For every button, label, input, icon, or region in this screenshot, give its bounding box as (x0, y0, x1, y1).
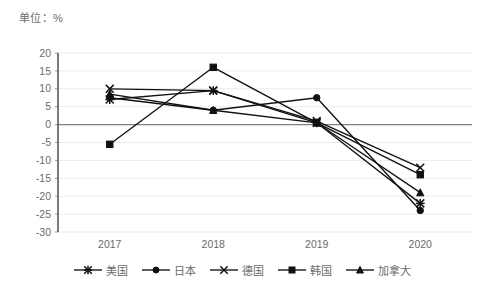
triangle-marker-icon (345, 264, 375, 276)
svg-text:-20: -20 (36, 190, 51, 202)
square-marker-icon (277, 264, 307, 276)
line-chart: 单位：% 20151050-5-10-15-20-25-30 201720182… (0, 0, 484, 293)
legend-label: 美国 (106, 262, 128, 278)
svg-text:-30: -30 (36, 226, 51, 238)
svg-text:5: 5 (45, 100, 51, 112)
star-marker-icon (73, 264, 103, 276)
svg-text:15: 15 (39, 65, 51, 77)
svg-text:-25: -25 (36, 208, 51, 220)
legend-item-加拿大[interactable]: 加拿大 (345, 262, 411, 278)
legend-label: 德国 (242, 262, 264, 278)
series-德国 (106, 85, 424, 172)
series-group (105, 64, 424, 214)
legend-label: 日本 (174, 262, 196, 278)
y-axis-ticks: 20151050-5-10-15-20-25-30 (36, 47, 58, 238)
svg-text:2018: 2018 (202, 238, 226, 250)
legend-item-韩国[interactable]: 韩国 (277, 262, 332, 278)
legend-item-美国[interactable]: 美国 (73, 262, 128, 278)
svg-text:2020: 2020 (409, 238, 433, 250)
svg-text:2017: 2017 (98, 238, 122, 250)
plot-svg: 20151050-5-10-15-20-25-30 20172018201920… (0, 0, 484, 293)
legend-label: 韩国 (310, 262, 332, 278)
chart-legend: 美国日本德国韩国加拿大 (0, 262, 484, 278)
plot-area: 20151050-5-10-15-20-25-30 20172018201920… (0, 0, 484, 293)
legend-item-德国[interactable]: 德国 (209, 262, 264, 278)
svg-text:0: 0 (45, 118, 51, 130)
svg-text:2019: 2019 (305, 238, 329, 250)
x-axis-ticks: 2017201820192020 (98, 238, 432, 250)
legend-item-日本[interactable]: 日本 (141, 262, 196, 278)
svg-text:10: 10 (39, 82, 51, 94)
svg-text:20: 20 (39, 47, 51, 59)
legend-label: 加拿大 (378, 262, 411, 278)
svg-text:-10: -10 (36, 154, 51, 166)
svg-text:-15: -15 (36, 172, 51, 184)
svg-text:-5: -5 (42, 136, 51, 148)
x-marker-icon (209, 264, 239, 276)
circle-marker-icon (141, 264, 171, 276)
gridlines (58, 53, 472, 232)
